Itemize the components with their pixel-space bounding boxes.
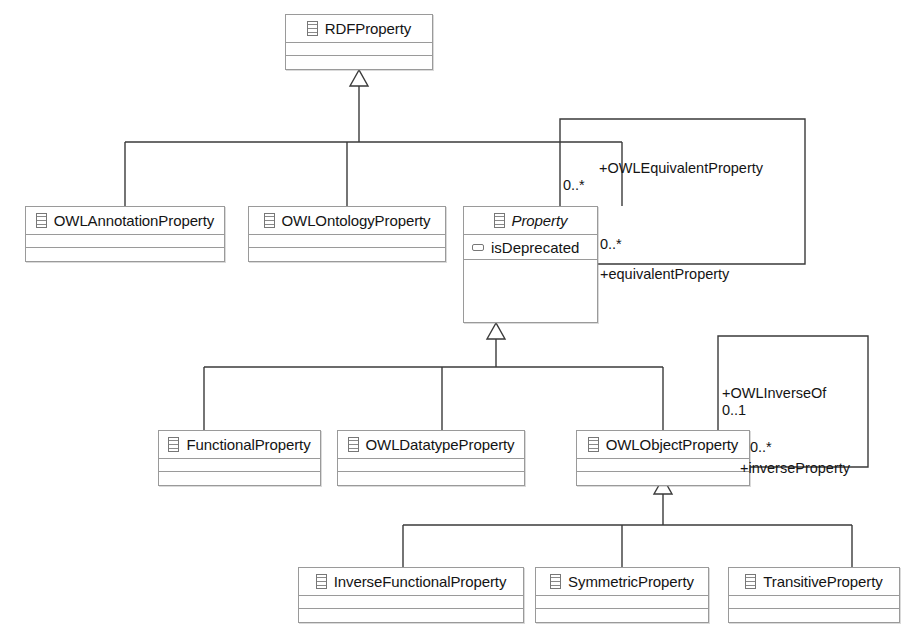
class-box-functionalproperty[interactable]: FunctionalProperty bbox=[158, 430, 321, 486]
association-multiplicity-label-equivalent-right: 0..* bbox=[600, 236, 622, 253]
class-name-row: TransitiveProperty bbox=[729, 568, 899, 596]
class-attributes-compartment bbox=[729, 596, 899, 609]
class-operations-compartment bbox=[729, 609, 899, 622]
class-name-row: RDFProperty bbox=[286, 15, 432, 43]
class-attributes-compartment bbox=[338, 459, 524, 472]
class-attributes-compartment bbox=[159, 459, 320, 472]
class-box-property[interactable]: Property isDeprecated bbox=[463, 206, 598, 323]
class-operations-compartment bbox=[577, 472, 749, 485]
class-operations-compartment bbox=[249, 248, 445, 261]
uml-class-icon bbox=[494, 213, 505, 228]
class-attributes-compartment bbox=[249, 235, 445, 248]
class-name-row: OWLObjectProperty bbox=[577, 431, 749, 459]
class-box-inversefunctionalproperty[interactable]: InverseFunctionalProperty bbox=[298, 567, 524, 623]
class-name-label: Property bbox=[512, 212, 568, 229]
class-name-label: FunctionalProperty bbox=[186, 436, 310, 453]
generalization-arrow-property bbox=[487, 323, 505, 339]
class-box-owlontologyproperty[interactable]: OWLOntologyProperty bbox=[248, 206, 446, 262]
class-name-label: TransitiveProperty bbox=[763, 573, 882, 590]
class-operations-compartment bbox=[536, 609, 708, 622]
uml-diagram-canvas: RDFProperty OWLAnnotationProperty OWLOnt… bbox=[0, 0, 909, 635]
class-box-rdfproperty[interactable]: RDFProperty bbox=[285, 14, 433, 70]
class-name-label: OWLObjectProperty bbox=[606, 436, 739, 453]
class-box-owldatatypeproperty[interactable]: OWLDatatypeProperty bbox=[337, 430, 525, 486]
uml-class-icon bbox=[264, 213, 275, 228]
class-attributes-compartment bbox=[299, 596, 523, 609]
uml-class-icon bbox=[348, 437, 359, 452]
class-name-label: OWLDatatypeProperty bbox=[366, 436, 515, 453]
class-name-row: InverseFunctionalProperty bbox=[299, 568, 523, 596]
class-box-transitiveproperty[interactable]: TransitiveProperty bbox=[728, 567, 900, 623]
uml-class-icon bbox=[307, 21, 318, 36]
association-multiplicity-label-inverse-right: 0..* bbox=[750, 439, 772, 456]
uml-class-icon bbox=[550, 574, 561, 589]
association-role-label-owlequivalentproperty: +OWLEquivalentProperty bbox=[599, 160, 763, 177]
class-attributes-compartment bbox=[577, 459, 749, 472]
uml-class-icon bbox=[745, 574, 756, 589]
class-name-row: OWLAnnotationProperty bbox=[26, 207, 224, 235]
class-operations-compartment bbox=[26, 248, 224, 261]
uml-class-icon bbox=[588, 437, 599, 452]
association-role-label-equivalentproperty: +equivalentProperty bbox=[600, 266, 729, 283]
class-attributes-compartment bbox=[26, 235, 224, 248]
class-name-label: RDFProperty bbox=[325, 20, 411, 37]
class-name-row: OWLOntologyProperty bbox=[249, 207, 445, 235]
uml-class-icon bbox=[316, 574, 327, 589]
class-box-owlannotationproperty[interactable]: OWLAnnotationProperty bbox=[25, 206, 225, 262]
class-box-owlobjectproperty[interactable]: OWLObjectProperty bbox=[576, 430, 750, 486]
association-role-label-inverseproperty: +inverseProperty bbox=[740, 460, 850, 477]
class-box-symmetricproperty[interactable]: SymmetricProperty bbox=[535, 567, 709, 623]
generalization-arrow-rdfproperty bbox=[350, 70, 368, 86]
class-name-label: SymmetricProperty bbox=[568, 573, 694, 590]
class-name-row: SymmetricProperty bbox=[536, 568, 708, 596]
class-attributes-compartment bbox=[536, 596, 708, 609]
class-name-row: Property bbox=[464, 207, 597, 235]
class-attributes-compartment bbox=[286, 43, 432, 56]
class-operations-compartment bbox=[464, 260, 597, 322]
class-name-label: InverseFunctionalProperty bbox=[334, 573, 507, 590]
uml-attribute-icon bbox=[472, 244, 484, 251]
uml-class-icon bbox=[168, 437, 179, 452]
class-operations-compartment bbox=[286, 56, 432, 69]
class-attribute-row[interactable]: isDeprecated bbox=[464, 235, 597, 260]
association-multiplicity-label-inverse-top: 0..1 bbox=[722, 402, 746, 419]
class-name-row: OWLDatatypeProperty bbox=[338, 431, 524, 459]
class-operations-compartment bbox=[338, 472, 524, 485]
diagram-connectors bbox=[0, 0, 909, 635]
class-name-label: OWLAnnotationProperty bbox=[54, 212, 214, 229]
class-operations-compartment bbox=[299, 609, 523, 622]
association-multiplicity-label-equivalent-top: 0..* bbox=[563, 177, 585, 194]
association-role-label-owlinverseof: +OWLInverseOf bbox=[722, 385, 826, 402]
class-name-row: FunctionalProperty bbox=[159, 431, 320, 459]
uml-class-icon bbox=[36, 213, 47, 228]
class-attribute-label: isDeprecated bbox=[491, 239, 579, 256]
class-operations-compartment bbox=[159, 472, 320, 485]
class-name-label: OWLOntologyProperty bbox=[282, 212, 431, 229]
